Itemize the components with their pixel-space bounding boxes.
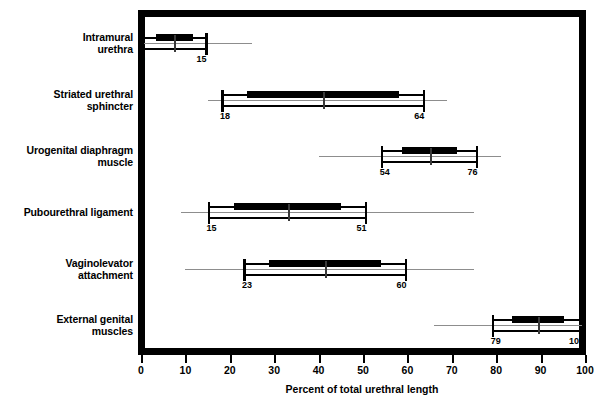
x-tick-mark xyxy=(363,355,365,363)
range-cap-high xyxy=(582,315,585,337)
range-cap-low xyxy=(208,202,211,224)
range-cap-low xyxy=(492,315,495,337)
range-cap-high xyxy=(365,202,368,224)
x-tick-label: 20 xyxy=(224,364,236,376)
category-label-text: Intramural urethra xyxy=(83,31,133,56)
x-tick-label: 90 xyxy=(535,364,547,376)
chart-row: 5476 xyxy=(145,144,579,170)
x-tick-label: 40 xyxy=(313,364,325,376)
range-cap-high xyxy=(423,90,426,112)
x-tick-label: 80 xyxy=(490,364,502,376)
range-cap-high xyxy=(476,146,479,168)
x-tick-mark xyxy=(319,355,321,363)
plot-area: 015186454761551236079100 xyxy=(145,17,579,348)
x-tick-mark xyxy=(230,355,232,363)
x-tick-mark xyxy=(585,355,587,363)
range-cap-high xyxy=(405,259,408,281)
category-label-text: Vaginolevator attachment xyxy=(65,257,133,282)
x-tick-label: 60 xyxy=(402,364,414,376)
x-tick-mark xyxy=(496,355,498,363)
range-cap-low xyxy=(243,259,246,281)
x-tick-mark xyxy=(407,355,409,363)
value-label-high: 60 xyxy=(396,280,406,290)
chart-row: 015 xyxy=(145,31,579,57)
value-label-high: 64 xyxy=(414,111,424,121)
range-cap-low xyxy=(141,33,144,55)
value-label-low: 79 xyxy=(491,336,501,346)
x-tick-mark xyxy=(541,355,543,363)
x-tick-mark xyxy=(274,355,276,363)
x-tick-mark xyxy=(452,355,454,363)
value-label-high: 100 xyxy=(569,336,584,346)
category-label-text: Striated urethral sphincter xyxy=(54,88,133,113)
median-marker xyxy=(325,261,327,278)
median-marker xyxy=(430,148,432,165)
value-label-low: 18 xyxy=(220,111,230,121)
x-tick-mark xyxy=(185,355,187,363)
value-label-high: 76 xyxy=(467,167,477,177)
chart-row: 1551 xyxy=(145,200,579,226)
x-axis: 0102030405060708090100 Percent of total … xyxy=(138,355,586,398)
x-tick-label: 70 xyxy=(446,364,458,376)
plot-frame: 015186454761551236079100 xyxy=(138,10,586,355)
median-marker xyxy=(323,92,325,109)
value-label-low: 23 xyxy=(242,280,252,290)
range-cap-low xyxy=(221,90,224,112)
chart-row: 79100 xyxy=(145,313,579,339)
range-cap-high xyxy=(205,33,208,55)
x-tick-label: 50 xyxy=(357,364,369,376)
median-marker xyxy=(174,35,176,52)
x-tick-mark xyxy=(141,355,143,363)
range-cap-low xyxy=(381,146,384,168)
x-tick-label: 30 xyxy=(268,364,280,376)
median-marker xyxy=(538,317,540,334)
x-tick-label: 100 xyxy=(576,364,594,376)
value-label-low: 54 xyxy=(380,167,390,177)
x-tick-label: 10 xyxy=(180,364,192,376)
x-axis-title: Percent of total urethral length xyxy=(138,383,586,395)
chart-figure: Intramural urethraStriated urethral sphi… xyxy=(0,0,597,398)
value-label-high: 15 xyxy=(197,54,207,64)
chart-row: 1864 xyxy=(145,88,579,114)
value-label-low: 0 xyxy=(140,54,145,64)
category-label-text: External genital muscles xyxy=(56,313,133,338)
category-label-text: Pubourethral ligament xyxy=(24,206,133,219)
value-label-low: 15 xyxy=(207,223,217,233)
chart-row: 2360 xyxy=(145,257,579,283)
value-label-high: 51 xyxy=(356,223,366,233)
category-label-text: Urogenital diaphragm muscle xyxy=(26,144,133,169)
x-tick-label: 0 xyxy=(138,364,144,376)
median-marker xyxy=(288,204,290,221)
